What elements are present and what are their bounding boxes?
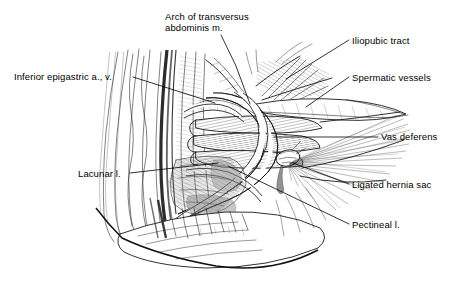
label-line: Arch of transversus	[165, 11, 249, 22]
label-line: abdominis m.	[165, 22, 223, 33]
label-lacunar-ligament: Lacunar l.	[78, 168, 121, 179]
anatomy-illustration-canvas: Arch of transversusabdominis m.Iliopubic…	[0, 0, 462, 296]
label-pectineal-ligament: Pectineal l.	[352, 219, 400, 230]
anatomy-figure: Arch of transversusabdominis m.Iliopubic…	[0, 0, 462, 296]
label-ligated-hernia-sac: Ligated hernia sac	[352, 179, 432, 190]
label-line: Vas deferens	[381, 131, 438, 142]
label-line: Pectineal l.	[352, 219, 400, 230]
label-line: Spermatic vessels	[352, 72, 431, 83]
label-vas-deferens: Vas deferens	[381, 131, 438, 142]
label-line: Iliopubic tract	[352, 35, 410, 46]
label-spermatic-vessels: Spermatic vessels	[352, 72, 431, 83]
label-line: Inferior epigastric a., v.	[14, 71, 112, 82]
label-iliopubic-tract: Iliopubic tract	[352, 35, 410, 46]
label-line: Ligated hernia sac	[352, 179, 432, 190]
label-inferior-epigastric: Inferior epigastric a., v.	[14, 71, 112, 82]
label-line: Lacunar l.	[78, 168, 121, 179]
